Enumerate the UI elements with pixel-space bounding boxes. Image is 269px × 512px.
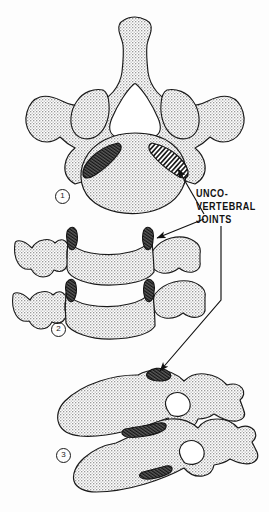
- label-line-vertebral: VERTEBRAL: [196, 200, 256, 213]
- panel-3-lower-inferior-notch: [180, 441, 205, 465]
- panel-2-lower-vertebral-body: [65, 293, 155, 339]
- figure-number-2: 2: [51, 322, 66, 337]
- panel-3-top-uncovertebral-joint: [147, 368, 171, 381]
- anatomical-figure: UNCO- VERTEBRAL JOINTS 1 2 3: [0, 0, 269, 512]
- panel-2-vertebrae-anterior-view: [13, 227, 206, 339]
- panel-2-upper-right-transverse-process: [151, 237, 201, 273]
- figure-number-1: 1: [55, 189, 70, 204]
- panel-2-upper-left-transverse-process: [15, 240, 68, 277]
- panel-2-lower-right-uncovertebral-joint: [144, 279, 155, 302]
- panel-2-lower-right-transverse-process: [153, 281, 205, 318]
- panel-2-lower-left-uncovertebral-joint: [66, 279, 77, 302]
- panel-2-upper-vertebral-body: [67, 241, 154, 285]
- panel-2-upper-left-uncovertebral-joint: [67, 227, 78, 250]
- anatomy-illustration: [0, 0, 269, 512]
- panel-2-upper-right-uncovertebral-joint: [143, 227, 154, 250]
- figure-number-3: 3: [56, 448, 71, 463]
- panel-3-upper-inferior-notch: [166, 393, 191, 417]
- label-line-joints: JOINTS: [196, 213, 232, 226]
- label-line-unco: UNCO-: [196, 187, 228, 200]
- panel-1-vertebra-superior-view: [26, 17, 244, 214]
- panel-3-vertebrae-oblique-view: [58, 368, 258, 492]
